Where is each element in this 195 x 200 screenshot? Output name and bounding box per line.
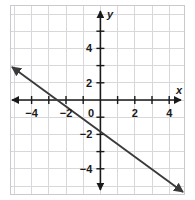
coordinate-plane-svg [0,0,195,200]
x-tick-label-neg2: −2 [60,108,73,119]
y-tick-label-neg2: −2 [80,129,93,140]
y-axis-label: y [107,9,113,20]
origin-label: 0 [88,108,94,119]
y-tick-label-4: 4 [86,43,92,54]
y-tick-label-2: 2 [86,77,92,88]
y-tick-label-neg4: −4 [80,163,93,174]
x-tick-label-2: 2 [132,108,138,119]
x-tick-label-neg4: −4 [25,108,38,119]
x-tick-label-4: 4 [166,108,172,119]
x-axis-label: x [176,85,182,96]
graph-figure: −4 −2 2 4 0 4 2 −2 −4 x y [0,0,195,200]
